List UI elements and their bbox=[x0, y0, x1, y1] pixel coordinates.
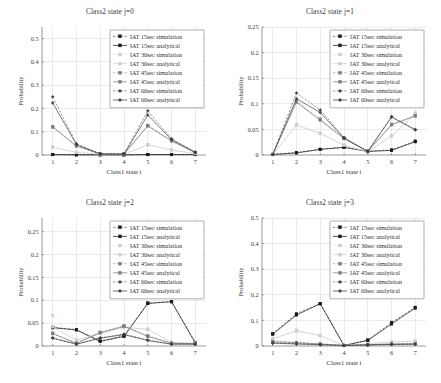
x-tick-label: 5 bbox=[146, 158, 149, 165]
data-point-marker bbox=[295, 91, 298, 94]
x-tick-label: 6 bbox=[170, 158, 173, 165]
y-tick-label: 0.1 bbox=[31, 128, 39, 135]
legend-label: IAT 60sec simulation bbox=[350, 279, 402, 285]
legend-label: IAT 60sec analytical bbox=[130, 97, 180, 103]
plot-area: 00.10.20.30.40.51234567Class1 state iPro… bbox=[220, 191, 440, 382]
data-point-marker bbox=[319, 302, 322, 305]
legend-label: IAT 30sec analytical bbox=[130, 252, 180, 258]
x-tick-label: 1 bbox=[271, 349, 274, 356]
x-tick-label: 3 bbox=[99, 158, 102, 165]
x-tick-label: 2 bbox=[75, 158, 78, 165]
legend-label: IAT 60sec analytical bbox=[350, 97, 400, 103]
data-point-marker bbox=[339, 262, 342, 265]
data-point-marker bbox=[390, 123, 393, 126]
legend-label: IAT 15sec analytical bbox=[130, 43, 180, 49]
legend-label: IAT 45sec simulation bbox=[350, 70, 402, 76]
legend-label: IAT 15sec analytical bbox=[350, 234, 400, 240]
y-tick-label: 0 bbox=[35, 342, 38, 349]
x-tick-label: 7 bbox=[414, 158, 417, 165]
data-point-marker bbox=[75, 329, 78, 332]
legend-label: IAT 30sec analytical bbox=[350, 61, 400, 67]
data-point-marker bbox=[271, 333, 274, 336]
legend-label: IAT 45sec simulation bbox=[130, 70, 182, 76]
plot-area: 00.050.10.150.20.251234567Class1 state i… bbox=[220, 0, 440, 191]
legend-label: IAT 15sec simulation bbox=[130, 225, 182, 231]
data-point-marker bbox=[319, 148, 322, 151]
x-tick-label: 6 bbox=[170, 349, 173, 356]
data-point-marker bbox=[339, 226, 342, 229]
plot-svg: 00.050.10.150.20.251234567Class1 state i… bbox=[220, 0, 440, 191]
x-axis-label: Class1 state i bbox=[107, 359, 142, 366]
y-tick-label: 0 bbox=[35, 151, 38, 158]
y-axis-label: Probability bbox=[237, 267, 244, 297]
x-tick-label: 1 bbox=[51, 158, 54, 165]
x-tick-label: 1 bbox=[51, 349, 54, 356]
data-point-marker bbox=[51, 126, 54, 129]
chart-panel-0: Class2 state j=000.10.20.30.40.51234567C… bbox=[0, 0, 220, 191]
data-point-marker bbox=[319, 119, 322, 122]
y-tick-label: 0.5 bbox=[31, 35, 39, 42]
x-tick-label: 4 bbox=[122, 158, 125, 165]
data-point-marker bbox=[99, 331, 102, 334]
x-tick-label: 6 bbox=[390, 158, 393, 165]
legend-label: IAT 15sec simulation bbox=[350, 225, 402, 231]
legend: IAT 15sec simulationIAT 15sec analytical… bbox=[330, 30, 424, 108]
data-point-marker bbox=[390, 135, 393, 138]
x-axis-label: Class1 state i bbox=[107, 168, 142, 175]
data-point-marker bbox=[119, 62, 122, 65]
y-tick-label: 0.2 bbox=[251, 49, 259, 56]
figure-canvas: Class2 state j=000.10.20.30.40.51234567C… bbox=[0, 0, 441, 383]
data-point-marker bbox=[339, 53, 342, 56]
data-point-marker bbox=[119, 244, 122, 247]
data-point-marker bbox=[119, 71, 122, 74]
chart-panel-1: Class2 state j=100.050.10.150.20.2512345… bbox=[220, 0, 440, 191]
data-point-marker bbox=[339, 271, 342, 274]
plot-area: 00.10.20.30.40.51234567Class1 state iPro… bbox=[0, 0, 220, 191]
x-tick-label: 2 bbox=[295, 349, 298, 356]
data-point-marker bbox=[295, 330, 298, 333]
legend-label: IAT 45sec simulation bbox=[350, 261, 402, 267]
data-point-marker bbox=[295, 124, 298, 127]
data-point-marker bbox=[51, 95, 54, 98]
data-point-marker bbox=[75, 151, 78, 154]
legend-label: IAT 15sec simulation bbox=[130, 34, 182, 40]
legend: IAT 15sec simulationIAT 15sec analytical… bbox=[330, 221, 424, 299]
legend-label: IAT 45sec simulation bbox=[130, 261, 182, 267]
data-point-marker bbox=[170, 153, 173, 156]
data-point-marker bbox=[319, 132, 322, 135]
data-point-marker bbox=[119, 80, 122, 83]
y-axis-label: Probability bbox=[17, 267, 24, 297]
legend: IAT 15sec simulationIAT 15sec analytical… bbox=[110, 30, 204, 108]
legend: IAT 15sec simulationIAT 15sec analytical… bbox=[110, 221, 204, 299]
data-point-marker bbox=[146, 328, 149, 331]
plot-svg: 00.050.10.150.20.251234567Class1 state i… bbox=[0, 191, 220, 382]
x-tick-label: 4 bbox=[122, 349, 125, 356]
data-point-marker bbox=[295, 152, 298, 155]
legend-label: IAT 45sec analytical bbox=[130, 270, 180, 276]
data-point-marker bbox=[123, 325, 126, 328]
y-axis-label: Probability bbox=[17, 76, 24, 106]
y-tick-label: 0.2 bbox=[251, 291, 259, 298]
data-point-marker bbox=[119, 44, 122, 47]
y-tick-label: 0.15 bbox=[248, 74, 259, 81]
x-tick-label: 3 bbox=[319, 349, 322, 356]
data-point-marker bbox=[119, 235, 122, 238]
x-tick-label: 6 bbox=[390, 349, 393, 356]
y-tick-label: 0.2 bbox=[31, 105, 39, 112]
data-point-marker bbox=[414, 340, 417, 343]
y-tick-label: 0.5 bbox=[251, 214, 259, 221]
chart-panel-3: Class2 state j=300.10.20.30.40.51234567C… bbox=[220, 191, 440, 382]
data-point-marker bbox=[75, 339, 78, 342]
data-point-marker bbox=[339, 71, 342, 74]
data-point-marker bbox=[339, 80, 342, 83]
x-tick-label: 5 bbox=[366, 349, 369, 356]
x-tick-label: 5 bbox=[366, 158, 369, 165]
data-point-marker bbox=[339, 62, 342, 65]
y-tick-label: 0.1 bbox=[251, 100, 259, 107]
x-tick-label: 3 bbox=[99, 349, 102, 356]
legend-label: IAT 15sec analytical bbox=[130, 234, 180, 240]
data-point-marker bbox=[99, 340, 102, 343]
data-point-marker bbox=[170, 300, 173, 303]
data-point-marker bbox=[146, 153, 149, 156]
data-point-marker bbox=[390, 149, 393, 152]
